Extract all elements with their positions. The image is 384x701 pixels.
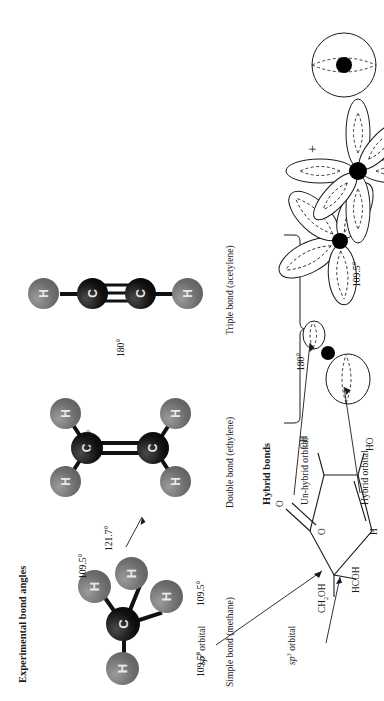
atom-carbon: C [77,278,108,309]
ann-sp3-base: sp [286,656,297,665]
hybrid-heading: Hybrid bonds [262,443,273,505]
ann-sp2-exp: 2 [195,653,202,656]
atom-hydrogen: H [50,466,81,497]
label-ho-group: HO [366,438,375,451]
atom-hydrogen: H [150,580,183,613]
sp2-annotation: sp2 orbital [196,626,207,665]
plus-operator: + [306,145,320,153]
angle-label: 116.6° [86,430,96,455]
angle-label: 109.5° [196,581,206,606]
s-orbital-diagram [300,19,384,105]
atom-hydrogen: H [50,398,81,429]
atom-carbon: C [106,607,140,641]
atom-hydrogen: H [115,557,148,590]
atom-carbon: C [125,278,156,309]
vitaminc-structure [300,371,370,671]
sp3-annotation: sp3 orbital [286,626,297,665]
label-hcoh: HCOH [352,567,361,593]
p-orbitals-diagram [300,105,384,235]
atom-hydrogen: H [172,278,203,309]
angle-pointer [120,481,170,551]
caption-acetylene: Triple bond (acetylene) [225,245,235,335]
atom-hydrogen: H [28,278,59,309]
model-acetylene: H H C C [44,239,204,329]
angle-label: 121.7° [104,526,114,551]
angle-label: 109.5° [78,554,88,579]
label-ring-oxygen: O [318,528,327,535]
label-oh-group: OH [300,436,309,449]
atom-hydrogen: H [160,398,191,429]
ann-sp2-base: sp [196,656,207,665]
caption-ethylene: Double bond (ethylene) [225,417,235,508]
caption-methane: Simple bond (methane) [225,597,235,687]
angle-label: 180° [116,339,126,357]
experimental-heading: Experimental bond angles [18,566,29,683]
atom-hydrogen: H [106,652,139,685]
label-ring-hydrogen: H [370,528,379,535]
angle-label: 180° [296,353,306,371]
angle-label: 109.5° [352,262,362,287]
figure-canvas: Experimental bond angles H H H H C 109.5… [0,0,384,701]
ann-sp3-exp: 3 [285,653,292,656]
atom-carbon: C [137,432,169,464]
label-ch2oh: CH2OH [318,583,329,613]
label-carbonyl-oxygen: O [276,500,285,507]
